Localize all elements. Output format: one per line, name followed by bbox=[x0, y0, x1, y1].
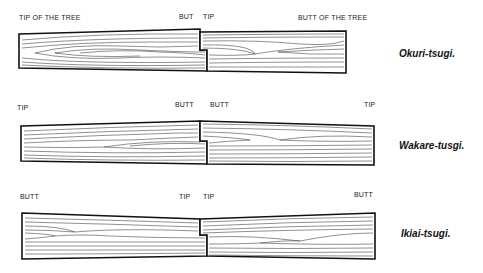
board-ikiai-left bbox=[22, 213, 207, 259]
board-okuri-left bbox=[19, 29, 207, 71]
board-ikiai-right bbox=[200, 213, 375, 259]
wood-joint-drawings: .ol { fill: #fff; stroke: #111; stroke-w… bbox=[0, 0, 483, 273]
board-okuri-right bbox=[200, 31, 346, 73]
board-wakare-right bbox=[200, 121, 374, 165]
board-wakare-left bbox=[21, 121, 207, 164]
